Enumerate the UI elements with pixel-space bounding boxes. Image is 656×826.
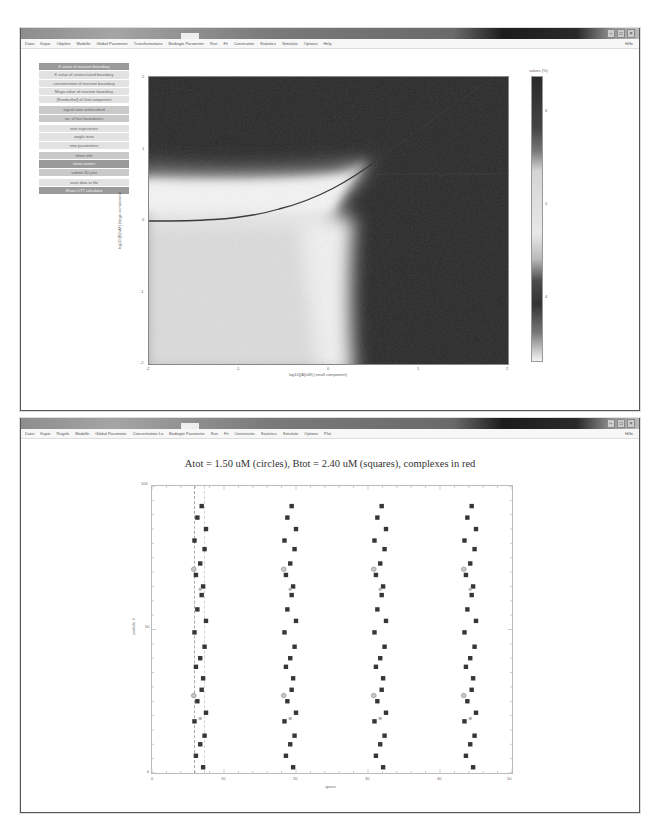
menu-item[interactable]: Options [304,39,318,48]
square-marker [474,527,478,531]
square-marker [288,561,292,565]
menu-item-help[interactable]: Hilfe [625,429,633,438]
square-marker [465,515,469,519]
square-marker [384,527,388,531]
bottom-window-titlebar[interactable]: – □ × [21,418,639,429]
square-marker [374,573,378,577]
circle-marker [371,567,376,571]
square-marker [201,676,205,680]
square-marker [384,619,388,623]
menu-item[interactable]: Modelle [75,429,89,438]
menu-item[interactable]: Datei [25,39,34,48]
menu-item[interactable]: Modelle [76,39,90,48]
second-component-button[interactable]: [Sundarthol] of 2nd component [39,96,129,104]
square-marker [465,607,469,611]
colorbar [531,76,543,362]
circle-marker [461,567,466,571]
square-marker [462,630,466,634]
circle-marker [191,567,196,571]
x-axis-label: log10([A]/uM) (small component) [289,372,347,377]
menu-item[interactable]: Run [210,39,217,48]
x-tick: -1 [236,366,240,371]
menu-item[interactable]: Bedingte Parameter [169,39,205,48]
square-marker [462,719,466,723]
menu-item[interactable]: Kopie [40,429,50,438]
colorbar-tick: 4 [545,294,547,299]
circle-marker [191,693,196,697]
calculator-button[interactable]: Show LITT calculator [39,187,129,195]
square-marker [468,561,472,565]
menu-item[interactable]: Constraints [234,429,254,438]
square-marker [468,742,472,746]
square-marker [282,538,286,542]
fast-boundaries-button[interactable]: no. of fast boundaries [39,115,129,123]
square-marker [375,699,379,703]
top-window-titlebar[interactable]: – □ × [21,28,639,39]
complex-marker [198,588,202,592]
menu-item[interactable]: Fit [224,429,228,438]
menu-item[interactable]: Fit [223,39,227,48]
menu-item[interactable]: Transformations [134,39,163,48]
close-icon[interactable]: × [627,419,635,428]
menu-item[interactable]: Concentration Ln [133,429,163,438]
x-tick: 1 [417,366,419,371]
menu-item[interactable]: Datei [25,429,34,438]
y-tick: -2 [140,360,144,365]
concentration-reaction-boundary-button[interactable]: concentration of reaction boundary [39,80,129,88]
minimize-icon[interactable]: – [607,29,615,38]
menu-item[interactable]: Statistics [261,429,277,438]
square-marker [471,765,475,769]
x-tick: 0 [327,366,329,371]
signal-ratio-button[interactable]: signal ratio undisturbed [39,106,129,114]
single-tests-button[interactable]: single tests [39,133,129,141]
close-icon[interactable]: × [627,29,635,38]
square-marker [379,688,383,692]
square-marker [199,504,203,508]
titlebar-tab [181,33,199,39]
menu-item[interactable]: Simulate [283,429,299,438]
menu-item[interactable]: Simulate [282,39,298,48]
maximize-icon[interactable]: □ [617,29,625,38]
top-window: – □ × Datei Kopie Objekte Modelle Global… [20,28,640,411]
new-parameters-button[interactable]: new parameters [39,142,129,150]
menu-item-help[interactable]: Hilfe [625,39,633,48]
square-marker [202,733,206,737]
menu-item[interactable]: Statistics [260,39,276,48]
square-marker [382,547,386,551]
complex-marker [468,717,472,721]
menu-item[interactable]: Kopie [40,39,50,48]
square-marker [294,619,298,623]
control-button-panel: K value of reaction boundary K value of … [39,63,129,195]
minimize-icon[interactable]: – [607,419,615,428]
square-marker [202,645,206,649]
show-info-button[interactable]: show info [39,152,129,160]
square-marker [198,656,202,660]
maximize-icon[interactable]: □ [617,419,625,428]
menu-item[interactable]: Global Parameter [96,39,127,48]
menu-item[interactable]: Constraints [234,39,254,48]
menu-item[interactable]: Options [304,429,318,438]
square-marker [474,619,478,623]
square-marker [379,593,383,597]
menu-item[interactable]: Plot [324,429,331,438]
menu-item[interactable]: Regeln [57,429,70,438]
k-value-reaction-boundary-button[interactable]: K value of reaction boundary [39,63,129,71]
square-marker [284,754,288,758]
show-names-button[interactable]: show names [39,160,129,168]
menu-item[interactable]: Help [323,39,331,48]
square-marker [284,665,288,669]
mega-value-reaction-boundary-button[interactable]: Mega value of reaction boundary [39,88,129,96]
menu-item[interactable]: Global Parameter [95,429,126,438]
square-marker [194,573,198,577]
menu-item[interactable]: Objekte [57,39,71,48]
square-marker [198,742,202,746]
menu-item[interactable]: Bedingte Parameter [169,429,205,438]
new-trajectories-button[interactable]: new trajectories [39,125,129,133]
square-marker [289,593,293,597]
k-value-unstructured-boundary-button[interactable]: K value of unstructured boundary [39,71,129,79]
square-marker [194,665,198,669]
save-data-button[interactable]: save data to file [39,179,129,187]
complex-marker [288,717,292,721]
submit-3d-plot-button[interactable]: submit 3D plot [39,169,129,177]
menu-item[interactable]: Run [211,429,218,438]
